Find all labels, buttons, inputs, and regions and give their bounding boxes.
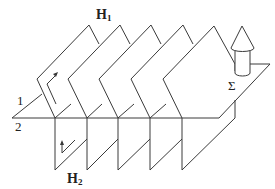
label-h1: H1 xyxy=(96,8,111,23)
label-h2: H2 xyxy=(67,172,82,187)
label-h1-main: H xyxy=(96,7,107,22)
lower-sheet-2 xyxy=(87,118,118,170)
label-surface-1: 1 xyxy=(17,94,24,107)
upper-diagonal xyxy=(87,104,102,118)
lower-sheets-h2 xyxy=(55,100,235,170)
upper-diagonal xyxy=(55,104,71,118)
upper-diagonal xyxy=(118,104,134,118)
upper-sheets-h1 xyxy=(37,25,235,118)
cylinder-cone-icon xyxy=(231,26,254,76)
upper-sheet-2 xyxy=(68,25,130,118)
upper-sheet-5 xyxy=(163,26,235,118)
label-h2-sub: 2 xyxy=(78,177,83,187)
label-h2-main: H xyxy=(67,171,78,186)
lower-sheet-5 xyxy=(182,100,235,170)
upper-sheet-3 xyxy=(99,25,161,118)
upper-sheet-1 xyxy=(37,25,99,118)
lower-sheet-4 xyxy=(150,118,182,170)
orientation-arrow-upper xyxy=(47,72,58,104)
diagram-canvas: H1 H2 1 2 Σ xyxy=(0,0,275,189)
label-sigma: Σ xyxy=(228,79,236,92)
upper-diagonal xyxy=(150,104,166,118)
label-surface-2: 2 xyxy=(15,120,22,133)
orientation-arrow-lower xyxy=(60,140,75,153)
diagram-lines xyxy=(0,0,275,189)
upper-sheet-4 xyxy=(131,25,193,118)
label-h1-sub: 1 xyxy=(107,13,112,23)
lower-sheet-3 xyxy=(118,118,150,170)
